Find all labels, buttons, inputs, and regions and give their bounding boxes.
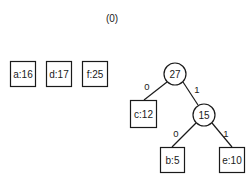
edge-n27-n15: 1 [183, 82, 200, 105]
forest-leaf-a: a:16 [11, 62, 36, 87]
node-label: b:5 [166, 155, 180, 166]
node-label: e:10 [222, 155, 242, 166]
edge-line [212, 123, 232, 147]
edge-bit-label: 0 [144, 81, 149, 92]
node-weight: 27 [169, 69, 181, 80]
tree-leaf-c: c:12 [131, 101, 157, 128]
tree-leaf-b: b:5 [161, 148, 185, 173]
edge-bit-label: 1 [223, 128, 228, 139]
edge-n15-b: 0 [172, 123, 196, 147]
step-title: (0) [106, 13, 118, 24]
node-label: c:12 [134, 109, 153, 120]
forest-nodes: a:16d:17f:25 [11, 62, 108, 87]
node-label: f:25 [87, 69, 104, 80]
internal-node-15: 15 [193, 104, 215, 126]
tree-edges: 0101 [144, 81, 232, 147]
edge-bit-label: 0 [173, 128, 178, 139]
tree-internal-nodes: 2715 [164, 63, 215, 126]
node-label: a:16 [13, 69, 33, 80]
edge-n15-e: 1 [212, 123, 232, 147]
edge-n27-c: 0 [144, 81, 167, 100]
node-label: d:17 [49, 69, 69, 80]
huffman-diagram: (0) a:16d:17f:25 0101 2715 c:12b:5e:10 [0, 0, 247, 179]
forest-leaf-d: d:17 [47, 62, 72, 87]
internal-node-27: 27 [164, 63, 186, 85]
node-weight: 15 [198, 110, 210, 121]
tree-leaf-e: e:10 [220, 148, 245, 173]
edge-bit-label: 1 [194, 84, 199, 95]
forest-leaf-f: f:25 [83, 62, 108, 87]
